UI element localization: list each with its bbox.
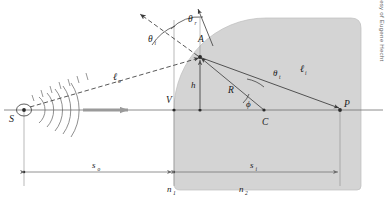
ell-i-symbol: ℓ — [300, 63, 304, 74]
ell-o-subscript: o — [118, 78, 121, 84]
dim-mid-dot — [173, 171, 176, 174]
incident-ray — [30, 58, 199, 107]
foot-of-h-dot — [198, 108, 201, 111]
label-phi: ϕ — [246, 99, 251, 109]
theta-i-subscript: i — [155, 40, 157, 46]
optics-ray-diagram: θ r θ i A θ t ℓ i ℓ o S V h — [0, 0, 387, 212]
label-theta-r: θ r — [188, 14, 198, 26]
label-ell-o: ℓ o — [113, 71, 121, 84]
ell-o-symbol: ℓ — [113, 71, 117, 82]
theta-r-arc — [171, 17, 203, 29]
s-i-symbol: s — [250, 160, 254, 170]
label-source-S: S — [9, 113, 14, 124]
image-credit: Courtesy of Eugene Hecht — [379, 0, 386, 96]
label-s-o: s o — [92, 160, 101, 172]
image-P-dot — [338, 108, 342, 112]
s-o-subscript: o — [98, 166, 101, 172]
label-point-A: A — [197, 34, 204, 44]
point-A-dot — [198, 55, 202, 59]
center-C-dot — [262, 108, 265, 111]
figure-canvas: θ r θ i A θ t ℓ i ℓ o S V h — [0, 0, 387, 212]
n1-subscript: 1 — [173, 190, 176, 196]
n2-subscript: 2 — [245, 190, 248, 196]
theta-r-subscript: r — [195, 20, 198, 26]
dim-start-dot — [23, 171, 26, 174]
label-center-C: C — [262, 117, 269, 127]
label-radius-R: R — [227, 85, 234, 95]
theta-i-symbol: θ — [148, 34, 153, 44]
theta-r-symbol: θ — [188, 14, 193, 24]
n1-symbol: n — [167, 184, 172, 194]
label-height-h: h — [191, 80, 196, 90]
label-vertex-V: V — [166, 95, 173, 105]
label-image-P: P — [343, 99, 350, 109]
vertex-V-dot — [172, 108, 175, 111]
s-o-symbol: s — [92, 160, 96, 170]
label-theta-i: θ i — [148, 34, 157, 46]
n2-symbol: n — [239, 184, 244, 194]
theta-t-symbol: θ — [273, 68, 278, 78]
